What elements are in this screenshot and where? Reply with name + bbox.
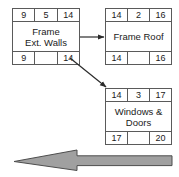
cell-float xyxy=(128,52,150,64)
cell-early-start: 9 xyxy=(13,9,35,21)
node-top-row: 14 3 17 xyxy=(106,89,171,102)
node-bottom-row: 14 16 xyxy=(106,51,171,64)
node-top-row: 14 2 16 xyxy=(106,9,171,22)
node-label-line1: Windows & xyxy=(115,106,163,117)
cell-float xyxy=(35,52,57,64)
node-label-line2: Ext. Walls xyxy=(25,37,67,48)
cell-duration: 3 xyxy=(128,89,150,101)
cell-early-finish: 17 xyxy=(150,89,171,101)
cell-late-finish: 16 xyxy=(150,52,171,64)
cell-early-start: 14 xyxy=(106,9,128,21)
cell-duration: 2 xyxy=(128,9,150,21)
node-label-line2: Doors xyxy=(126,117,151,128)
node-windows-doors[interactable]: 14 3 17 Windows & Doors 17 20 xyxy=(105,88,172,145)
node-top-row: 9 5 14 xyxy=(13,9,79,22)
node-label-line1: Frame Roof xyxy=(113,31,163,42)
cell-early-finish: 16 xyxy=(150,9,171,21)
node-label-line1: Frame xyxy=(32,26,59,37)
flow-arrow-shape xyxy=(14,150,172,171)
node-bottom-row: 9 14 xyxy=(13,51,79,64)
diagram-canvas: 9 5 14 Frame Ext. Walls 9 14 14 2 16 Fra… xyxy=(0,0,179,177)
cell-early-start: 14 xyxy=(106,89,128,101)
node-frame-ext-walls[interactable]: 9 5 14 Frame Ext. Walls 9 14 xyxy=(12,8,80,65)
cell-late-finish: 14 xyxy=(58,52,79,64)
cell-early-finish: 14 xyxy=(58,9,79,21)
cell-late-start: 9 xyxy=(13,52,35,64)
time-flow-arrow xyxy=(0,143,179,177)
node-label: Frame Ext. Walls xyxy=(13,22,79,51)
cell-late-start: 14 xyxy=(106,52,128,64)
node-frame-roof[interactable]: 14 2 16 Frame Roof 14 16 xyxy=(105,8,172,65)
node-label: Windows & Doors xyxy=(106,102,171,131)
node-label: Frame Roof xyxy=(106,22,171,51)
cell-duration: 5 xyxy=(35,9,57,21)
